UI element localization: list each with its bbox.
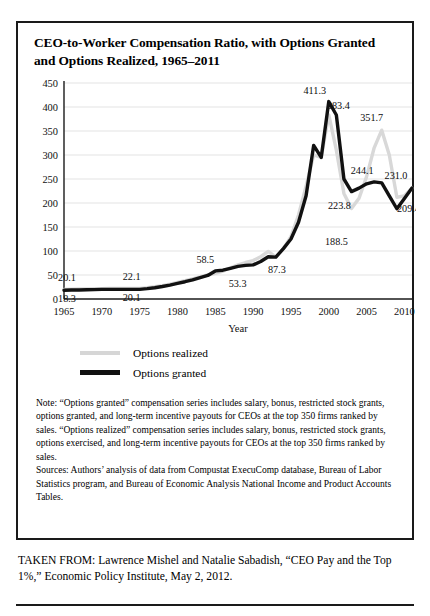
- x-axis-title: Year: [228, 323, 248, 334]
- y-axis-tick-label: 50: [48, 270, 58, 281]
- data-point-label: 351.7: [360, 112, 383, 123]
- y-axis-tick-label: 150: [42, 222, 58, 233]
- data-point-label: 20.1: [123, 292, 141, 303]
- figure-box: CEO-to-Worker Compensation Ratio, with O…: [16, 21, 414, 540]
- y-axis-tick-label: 400: [42, 102, 58, 113]
- x-axis-tick-label: 1985: [205, 306, 226, 317]
- data-point-label: 58.5: [196, 254, 214, 265]
- legend-item-options-granted: Options granted: [80, 363, 412, 383]
- note-text: Note: “Options granted” compensation ser…: [36, 397, 397, 464]
- legend-label-options-granted: Options granted: [133, 367, 206, 379]
- y-axis-tick-label: 450: [42, 78, 58, 89]
- data-point-label: 188.5: [325, 235, 348, 246]
- chart-area: 0501001502002503003504004501965197019751…: [18, 77, 412, 335]
- data-point-label: 411.3: [304, 84, 327, 95]
- data-point-label: 383.4: [327, 100, 350, 111]
- data-point-label: 53.3: [229, 278, 247, 289]
- x-axis-tick-label: 2010: [394, 306, 415, 317]
- y-axis-tick-label: 300: [42, 150, 58, 161]
- footer-divider: [16, 604, 414, 606]
- legend-swatch-granted-icon: [80, 370, 120, 375]
- sources-text: Sources: Authors’ analysis of data from …: [36, 464, 397, 504]
- figure-attribution: TAKEN FROM: Lawrence Mishel and Natalie …: [16, 553, 414, 586]
- x-axis-tick-label: 1980: [167, 306, 188, 317]
- x-axis-tick-label: 1990: [243, 306, 264, 317]
- line-chart: 0501001502002503003504004501965197019751…: [18, 77, 416, 335]
- y-axis-tick-label: 100: [42, 246, 58, 257]
- figure-notes: Note: “Options granted” compensation ser…: [36, 397, 397, 505]
- data-point-label: 18.3: [58, 293, 76, 304]
- data-point-label: 20.1: [58, 272, 76, 283]
- legend-item-options-realized: Options realized: [80, 343, 412, 363]
- data-point-label: 223.8: [328, 199, 351, 210]
- figure-title: CEO-to-Worker Compensation Ratio, with O…: [34, 34, 396, 70]
- x-axis-tick-label: 1975: [129, 306, 150, 317]
- x-axis-tick-label: 1970: [91, 306, 112, 317]
- y-axis-tick-label: 250: [42, 174, 58, 185]
- legend-label-options-realized: Options realized: [133, 347, 208, 359]
- data-point-label: 209.4: [397, 203, 416, 214]
- x-axis-tick-label: 2005: [356, 306, 377, 317]
- data-point-label: 244.1: [351, 165, 374, 176]
- x-axis-tick-label: 1995: [281, 306, 302, 317]
- x-axis-tick-label: 1965: [54, 306, 75, 317]
- data-point-label: 87.3: [268, 264, 286, 275]
- data-point-label: 22.1: [123, 271, 141, 282]
- legend-swatch-realized-icon: [80, 351, 120, 355]
- y-axis-tick-label: 200: [42, 198, 58, 209]
- figure-page: CEO-to-Worker Compensation Ratio, with O…: [0, 0, 430, 616]
- data-point-label: 231.0: [385, 170, 408, 181]
- series-line-options-realized: [64, 115, 412, 289]
- chart-legend: Options realized Options granted: [18, 343, 412, 383]
- x-axis-tick-label: 2000: [318, 306, 339, 317]
- y-axis-tick-label: 350: [42, 126, 58, 137]
